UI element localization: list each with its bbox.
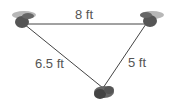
device-icon — [140, 11, 164, 27]
device-icon — [12, 11, 36, 28]
edge-label-top: 8 ft — [75, 8, 93, 21]
edge-label-left: 6.5 ft — [35, 57, 64, 70]
edge-label-right: 5 ft — [128, 56, 146, 69]
device-icon — [94, 86, 114, 99]
